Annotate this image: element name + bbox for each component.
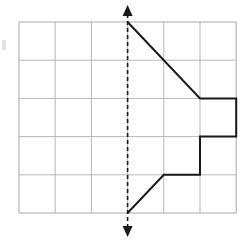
left-margin-mark-shape (2, 40, 6, 50)
left-margin-mark (2, 40, 6, 50)
geometry-diagram (0, 0, 246, 246)
canvas-background (0, 0, 246, 246)
figure-canvas (0, 0, 246, 246)
